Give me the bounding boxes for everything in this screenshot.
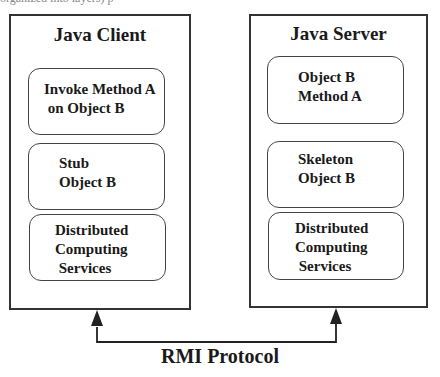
rmi-connector: [0, 0, 440, 377]
rmi-connector-line: [97, 324, 336, 342]
arrow-up-icon: [330, 308, 342, 324]
rmi-protocol-label: RMI Protocol: [0, 345, 440, 368]
arrow-up-icon: [91, 310, 103, 326]
